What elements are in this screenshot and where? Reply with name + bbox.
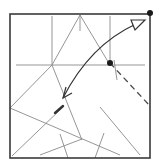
target-dot [107,60,113,66]
crease-line [80,15,110,65]
crease-line [40,139,82,155]
crease-line [12,107,63,156]
corner-dot [147,10,153,16]
reference-dots [107,10,153,66]
bold-segment [55,106,63,113]
crease-line [100,107,140,155]
crease-line [114,60,117,80]
crease-line [95,133,104,158]
fold-arrow [63,24,136,98]
dashed-fold-line [110,63,150,106]
crease-line [10,65,52,108]
crease-lines [10,15,145,158]
origami-diagram [0,0,162,167]
crease-line [52,65,82,140]
crease-line [52,15,80,65]
hollow-arrow-head-icon [131,20,145,30]
